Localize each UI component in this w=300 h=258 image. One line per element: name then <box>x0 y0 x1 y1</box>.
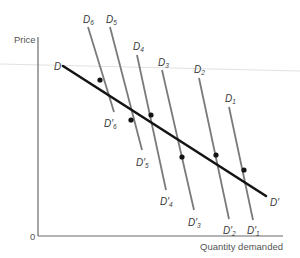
point-d6 <box>97 77 102 82</box>
svg-text:D2: D2 <box>194 64 205 76</box>
demand-curves-diagram: Price 0 Quantity demanded D6 D′6 D5 D′5 … <box>0 0 300 258</box>
origin-label: 0 <box>30 231 35 242</box>
svg-text:D′3: D′3 <box>188 217 201 229</box>
svg-text:D5: D5 <box>106 14 117 26</box>
point-d1 <box>241 167 246 172</box>
svg-text:D3: D3 <box>158 57 169 69</box>
faint-guide-line <box>0 64 300 71</box>
point-d2 <box>213 152 218 157</box>
market-demand-curve <box>63 66 266 196</box>
svg-text:D′4: D′4 <box>160 196 173 208</box>
x-axis-label: Quantity demanded <box>200 241 283 252</box>
curve-d5: D5 D′5 <box>106 14 149 169</box>
svg-text:D1: D1 <box>225 93 236 105</box>
point-d4 <box>148 112 153 117</box>
y-axis-label: Price <box>14 34 36 45</box>
svg-text:D4: D4 <box>133 41 144 53</box>
svg-text:D′1: D′1 <box>247 225 260 237</box>
market-curve-start-label: D <box>54 61 61 72</box>
svg-text:D′2: D′2 <box>223 225 236 237</box>
svg-text:D6: D6 <box>83 14 94 26</box>
market-curve-end-label: D′ <box>270 197 280 208</box>
curve-d1: D1 D′1 <box>225 93 260 237</box>
curve-d2: D2 D′2 <box>194 64 236 237</box>
svg-text:D′5: D′5 <box>136 157 149 169</box>
point-d3 <box>179 154 184 159</box>
point-d5 <box>128 117 133 122</box>
svg-text:D′6: D′6 <box>104 118 117 130</box>
